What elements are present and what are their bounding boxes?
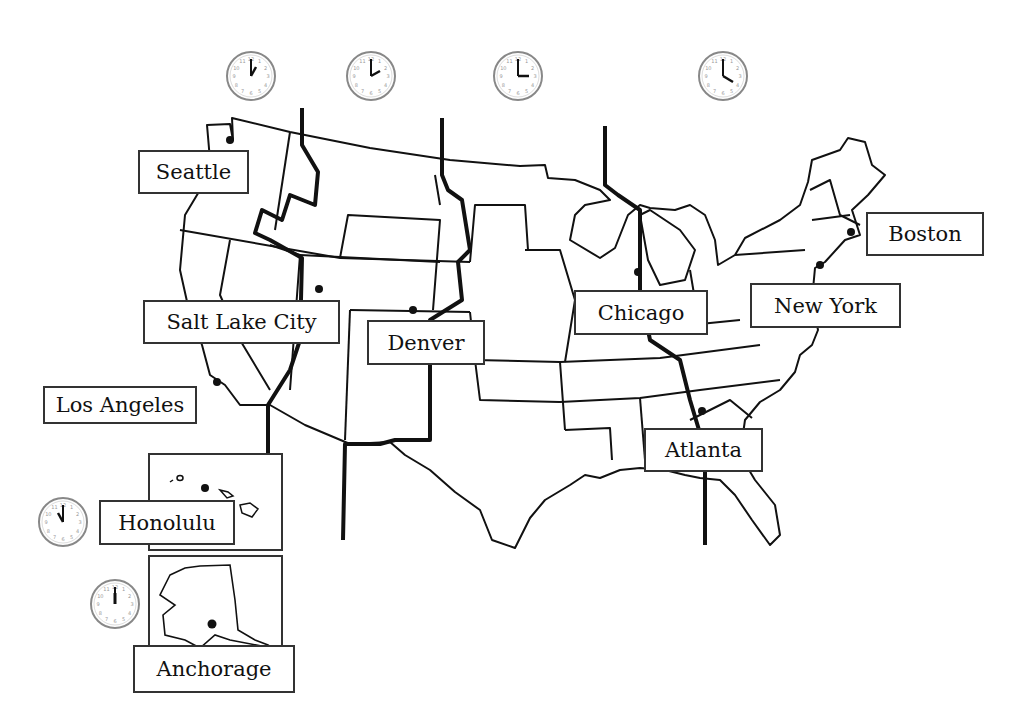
label-boston: Boston (866, 212, 984, 256)
label-honolulu: Honolulu (99, 500, 235, 545)
us-map-svg: 1212 345 678 91011 (0, 0, 1028, 722)
label-atlanta: Atlanta (644, 428, 763, 472)
seattle-dot (226, 136, 234, 144)
clock-central (494, 52, 542, 100)
denver-dot (409, 306, 417, 314)
clock-eastern (699, 52, 747, 100)
clock-alaska (91, 580, 139, 628)
label-anchorage: Anchorage (133, 645, 295, 693)
new-york-dot (816, 261, 824, 269)
time-zone-map: 1212 345 678 91011 (0, 0, 1028, 722)
atlanta-dot (698, 407, 706, 415)
alaska-inset (149, 556, 282, 648)
chicago-dot (634, 268, 642, 276)
label-salt-lake-city: Salt Lake City (143, 300, 340, 344)
clock-mountain (347, 52, 395, 100)
honolulu-dot (201, 484, 209, 492)
los-angeles-dot (213, 378, 221, 386)
label-chicago: Chicago (574, 290, 708, 335)
label-los-angeles: Los Angeles (43, 386, 197, 424)
clock-pacific (227, 52, 275, 100)
clock-hawaii (39, 498, 87, 546)
label-new-york: New York (750, 283, 901, 328)
anchorage-dot (208, 620, 217, 629)
boston-dot (847, 228, 855, 236)
salt-lake-city-dot (315, 285, 323, 293)
label-denver: Denver (367, 320, 485, 365)
label-seattle: Seattle (138, 150, 249, 194)
